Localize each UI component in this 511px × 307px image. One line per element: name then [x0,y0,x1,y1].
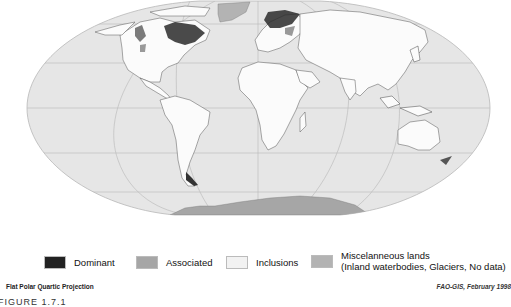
legend-label-line2: (Inland waterbodies, Glaciers, No data) [341,261,506,272]
legend-swatch-dominant [44,256,66,269]
legend-item-misc: Miscelanneous lands (Inland waterbodies,… [311,250,506,272]
credit-label: FAO-GIS, February 1998 [437,283,511,290]
projection-label: Flat Polar Quartic Projection [6,283,94,290]
legend-label: Inclusions [256,257,298,268]
legend-item-associated: Associated [136,256,212,269]
legend-swatch-associated [136,256,158,269]
figure-label: FIGURE 1.7.1 [0,297,67,307]
world-map [0,0,511,222]
legend: Dominant Associated Inclusions Miscelann… [0,250,511,280]
legend-item-inclusions: Inclusions [226,256,298,269]
legend-label: Associated [166,257,212,268]
legend-label-line1: Miscelanneous lands [341,250,506,261]
legend-swatch-inclusions [226,256,248,269]
legend-item-dominant: Dominant [44,256,115,269]
legend-label: Dominant [74,257,115,268]
legend-swatch-misc [311,255,333,268]
legend-label: Miscelanneous lands (Inland waterbodies,… [341,250,506,272]
